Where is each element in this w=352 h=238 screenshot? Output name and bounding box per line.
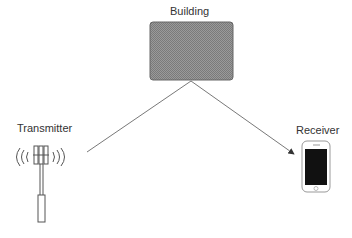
diagram-canvas <box>0 0 352 238</box>
receiver-phone-icon <box>302 141 330 192</box>
receiver-label: Receiver <box>296 124 339 136</box>
path-transmitter-to-building <box>87 81 191 152</box>
transmitter-tower-icon <box>17 146 65 222</box>
building-icon <box>150 22 233 80</box>
building-label: Building <box>170 5 209 17</box>
transmitter-label: Transmitter <box>17 122 72 134</box>
path-building-to-receiver <box>191 81 294 154</box>
